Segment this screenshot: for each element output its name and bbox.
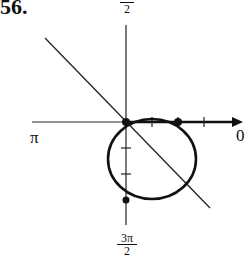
arrow-head-icon xyxy=(232,117,243,127)
pole-point xyxy=(122,118,130,126)
vertical-axis-point xyxy=(123,197,130,204)
circle-curve xyxy=(108,119,196,199)
polar-axis-point xyxy=(174,118,182,126)
axis-ticks xyxy=(121,117,204,174)
